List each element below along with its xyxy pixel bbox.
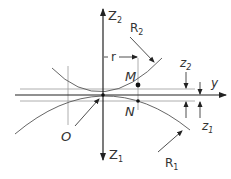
- z1-axis-label: Z1: [109, 147, 123, 164]
- point-n: [136, 99, 140, 103]
- upper-surface-curve-r2: [52, 58, 162, 92]
- point-o: [101, 93, 105, 97]
- point-n-label: N: [125, 104, 135, 119]
- r2-leader: [130, 37, 154, 62]
- z1-dim-label: z1: [201, 119, 213, 135]
- axes: [15, 9, 226, 160]
- r1-label: R1: [165, 156, 178, 172]
- z2-dim-label: z2: [179, 56, 191, 72]
- r-dim-label: r: [111, 50, 116, 64]
- r2-label: R2: [130, 21, 143, 37]
- o-leader: [75, 99, 99, 126]
- point-m-label: M: [125, 69, 136, 84]
- y-axis-label: y: [210, 76, 219, 90]
- contact-diagram: Z2 Z1 y R2 R1 r M N O z2 z1: [0, 0, 231, 179]
- origin-label: O: [61, 129, 71, 144]
- r1-leader: [158, 131, 182, 152]
- z2-axis-label: Z2: [108, 8, 122, 25]
- point-m: [136, 83, 141, 88]
